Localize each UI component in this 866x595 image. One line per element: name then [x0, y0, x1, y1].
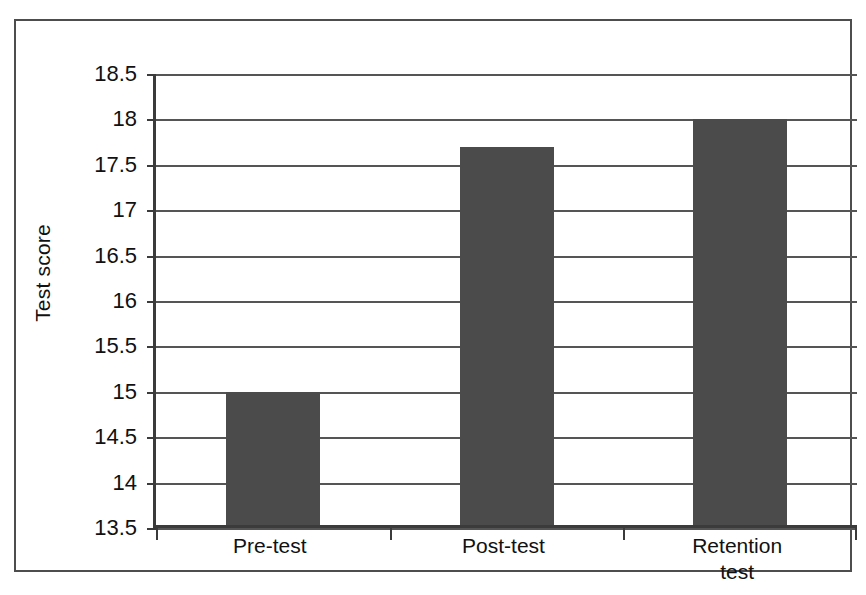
y-axis-tick-mark [147, 74, 156, 76]
y-axis-tick-label: 15.5 [38, 333, 137, 359]
gridline [156, 74, 857, 76]
bar [460, 147, 554, 528]
y-axis-tick-label: 14 [38, 470, 137, 496]
y-axis-tick-label: 14.5 [38, 424, 137, 450]
y-axis-tick-mark [147, 256, 156, 258]
y-axis-tick-label-group: 18.51817.51716.51615.51514.51413.5 [38, 55, 137, 511]
y-axis-tick-label: 18.5 [38, 61, 137, 87]
x-axis-category-label: Post-test [387, 533, 621, 559]
y-axis-tick-label: 13.5 [38, 515, 137, 541]
y-axis-tick-mark [147, 483, 156, 485]
y-axis-tick-mark [147, 210, 156, 212]
y-axis-tick-mark [147, 528, 156, 530]
x-axis-category-label-line: Pre-test [153, 533, 387, 559]
y-axis-tick-mark [147, 346, 156, 348]
x-axis-category-label: Retentiontest [620, 533, 854, 585]
y-axis-tick-mark [147, 437, 156, 439]
y-axis-tick-mark [147, 119, 156, 121]
y-axis-tick-label: 16.5 [38, 243, 137, 269]
x-axis-category-label-line: Retention [620, 533, 854, 559]
y-axis-tick-mark [147, 165, 156, 167]
gridline [156, 528, 857, 530]
y-axis-tick-label: 17 [38, 197, 137, 223]
figure-frame: Test score 18.51817.51716.51615.51514.51… [14, 19, 852, 572]
x-axis-category-label-line: test [620, 559, 854, 585]
bar [226, 392, 320, 528]
x-axis-category-label-line: Post-test [387, 533, 621, 559]
x-axis-category-label: Pre-test [153, 533, 387, 559]
x-axis-line [156, 525, 857, 528]
y-axis-tick-label: 17.5 [38, 152, 137, 178]
y-axis-tick-mark [147, 392, 156, 394]
y-axis-tick-label: 18 [38, 106, 137, 132]
y-axis-tick-label: 15 [38, 379, 137, 405]
y-axis-tick-mark [147, 301, 156, 303]
x-axis-category-label-group: Pre-testPost-testRetentiontest [153, 533, 854, 593]
x-axis-tick-mark [855, 528, 857, 540]
bar [693, 119, 787, 528]
plot-area [153, 74, 857, 528]
y-axis-tick-label: 16 [38, 288, 137, 314]
